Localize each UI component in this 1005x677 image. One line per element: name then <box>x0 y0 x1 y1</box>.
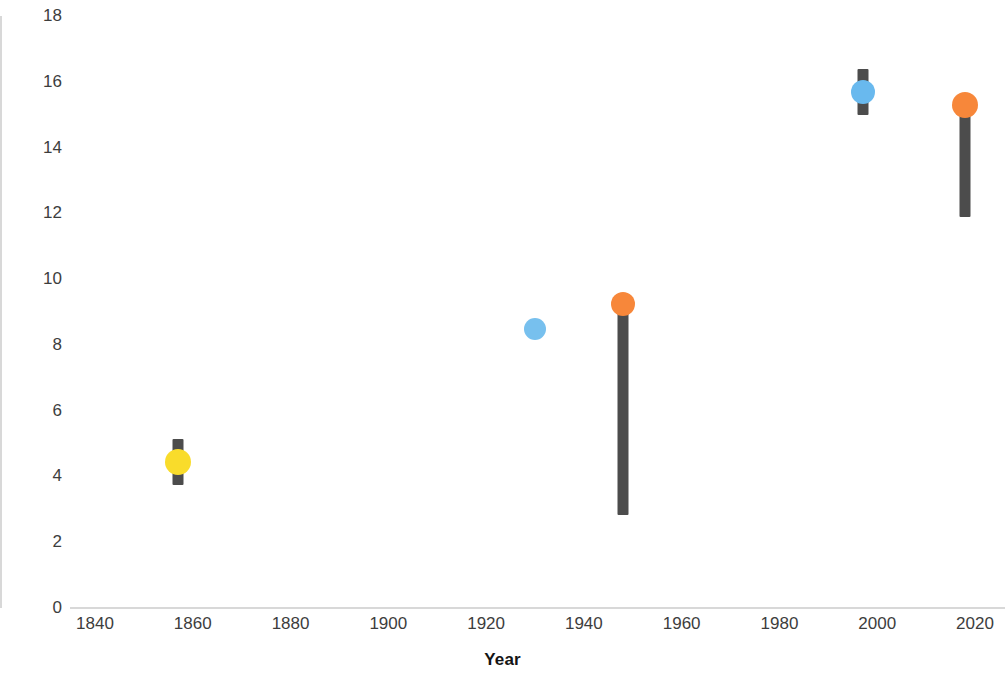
point-2018[interactable] <box>952 92 978 118</box>
y-axis-line <box>0 16 2 608</box>
y-tick-label: 2 <box>12 533 62 550</box>
y-tick-label: 10 <box>12 270 62 287</box>
x-axis-title: Year <box>0 650 1005 670</box>
point-1930[interactable] <box>524 318 546 340</box>
x-tick-label: 2020 <box>956 615 994 632</box>
x-axis-line <box>70 607 1005 609</box>
x-tick-label: 1880 <box>272 615 310 632</box>
point-1948[interactable] <box>611 292 635 316</box>
x-tick-label: 1840 <box>76 615 114 632</box>
y-tick-label: 14 <box>12 138 62 155</box>
point-1997[interactable] <box>851 80 875 104</box>
y-tick-label: 8 <box>12 335 62 352</box>
x-tick-label: 1900 <box>369 615 407 632</box>
y-axis-tick-labels: 024681012141618 <box>0 0 62 677</box>
x-tick-label: 1980 <box>761 615 799 632</box>
y-tick-label: 16 <box>12 72 62 89</box>
y-tick-label: 4 <box>12 467 62 484</box>
chart-figure: 024681012141618 184018601880190019201940… <box>0 0 1005 677</box>
x-tick-label: 1920 <box>467 615 505 632</box>
y-tick-label: 18 <box>12 7 62 24</box>
error-bar <box>618 295 629 515</box>
y-tick-label: 6 <box>12 401 62 418</box>
x-tick-label: 1860 <box>174 615 212 632</box>
x-tick-label: 2000 <box>858 615 896 632</box>
x-tick-label: 1960 <box>663 615 701 632</box>
x-tick-label: 1940 <box>565 615 603 632</box>
point-1857[interactable] <box>165 449 191 475</box>
y-tick-label: 0 <box>12 599 62 616</box>
y-tick-label: 12 <box>12 204 62 221</box>
